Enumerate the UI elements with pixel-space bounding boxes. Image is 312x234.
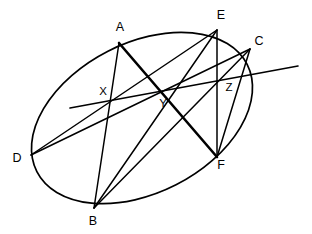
point-label-y: Y [159, 97, 167, 109]
vertex-label-c: C [254, 34, 263, 48]
point-label-z: Z [225, 81, 232, 93]
vertex-label-d: D [12, 151, 21, 165]
conic-ellipse [3, 0, 281, 234]
point-label-x: X [99, 85, 107, 97]
geometry-diagram: A B C D E F X Y Z [0, 0, 312, 234]
chord-ab [94, 43, 119, 208]
vertex-label-f: F [217, 158, 225, 172]
vertex-label-e: E [217, 8, 225, 22]
vertex-label-b: B [89, 214, 97, 228]
chord-eb [94, 30, 217, 208]
vertex-label-a: A [116, 20, 125, 34]
diagram-canvas: A B C D E F X Y Z [0, 0, 312, 234]
chord-cb [94, 49, 250, 208]
